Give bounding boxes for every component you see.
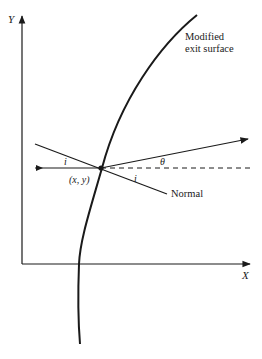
intersection-point — [98, 165, 103, 170]
normal-label: Normal — [171, 188, 203, 199]
point-label: (x, y) — [69, 174, 90, 186]
y-axis-label: Y — [8, 13, 16, 25]
x-axis-label: X — [241, 269, 250, 281]
incident-ray-arrow-icon — [36, 165, 43, 171]
exit-surface-curve — [78, 15, 197, 344]
surface-label-line1: Modified — [185, 31, 225, 42]
surface-label-line2: exit surface — [185, 43, 234, 54]
normal-angle-label: i — [134, 173, 137, 184]
refracted-ray — [101, 139, 248, 168]
incident-angle-label: i — [64, 156, 67, 167]
exit-surface-diagram: Y X Modified exit surface (x, y) i i θ N… — [0, 0, 262, 359]
refraction-angle-label: θ — [160, 156, 165, 167]
